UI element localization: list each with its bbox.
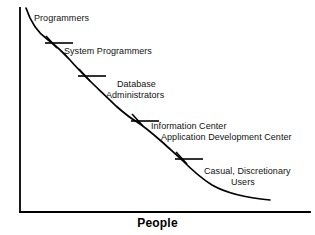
figure-container: Programmers System Programmers Database … <box>0 0 315 235</box>
label-database-administrators: Database Administrators <box>106 79 164 101</box>
label-information-center-line1: Information Center <box>151 121 292 132</box>
label-database-administrators-line1: Database <box>106 79 164 90</box>
label-information-center: Information Center Application Developme… <box>151 121 292 143</box>
label-system-programmers: System Programmers <box>64 46 152 57</box>
plot-area <box>0 0 315 235</box>
marker-system-programmers <box>78 69 106 81</box>
label-system-programmers-line1: System Programmers <box>64 46 152 57</box>
x-axis-title: People <box>0 216 315 230</box>
label-database-administrators-line2: Administrators <box>106 90 164 101</box>
label-information-center-line2: Application Development Center <box>151 132 292 143</box>
label-casual-users-line1: Casual, Discretionary <box>204 166 291 177</box>
label-casual-users: Casual, Discretionary Users <box>204 166 291 188</box>
label-casual-users-line2: Users <box>204 177 291 188</box>
label-programmers-line1: Programmers <box>34 13 89 24</box>
label-programmers: Programmers <box>34 13 89 24</box>
